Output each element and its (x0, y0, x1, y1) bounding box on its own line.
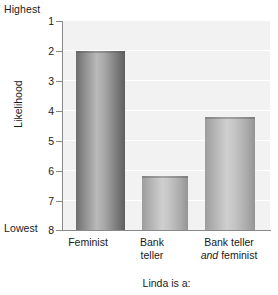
bar-top-edge (205, 117, 255, 119)
y-tick-4 (56, 111, 62, 112)
category-label-bank-teller: Bank teller (118, 236, 186, 261)
y-tick-label-8: 8 (2, 224, 54, 236)
y-tick-3 (56, 81, 62, 82)
category-label-italic-word: and (201, 249, 219, 261)
y-tick-label-5: 5 (2, 135, 54, 147)
bar-top-edge (142, 176, 188, 178)
y-tick-label-6: 6 (2, 165, 54, 177)
y-tick-label-2: 2 (2, 45, 54, 57)
x-axis-line (62, 230, 271, 231)
y-tick-8 (56, 230, 62, 231)
bar-top-edge (76, 51, 125, 53)
bar-feminist (76, 51, 125, 230)
x-axis-title: Linda is a: (63, 277, 270, 289)
category-label-line: Bank (118, 236, 186, 249)
y-tick-label-wrap-8: 8 (0, 230, 54, 231)
y-tick-label-1: 1 (2, 15, 54, 27)
y-tick-5 (56, 141, 62, 142)
axis-extreme-highest-label: Highest (4, 3, 40, 15)
y-tick-label-wrap-1: 1 (0, 21, 54, 22)
bar-bank-teller-and-feminist (205, 117, 255, 230)
y-tick-label-wrap-6: 6 (0, 171, 54, 172)
y-tick-label-3: 3 (2, 75, 54, 87)
y-tick-label-4: 4 (2, 105, 54, 117)
likelihood-bar-chart: Highest Lowest Likelihood 1 2 3 (0, 0, 278, 295)
y-axis-line (62, 21, 63, 231)
bar-bank-teller (142, 176, 188, 230)
y-tick-1 (56, 21, 62, 22)
y-tick-label-wrap-5: 5 (0, 141, 54, 142)
category-label-feminist: Feminist (52, 236, 124, 249)
y-tick-label-wrap-2: 2 (0, 51, 54, 52)
category-label-line: Bank teller (182, 236, 276, 249)
y-tick-2 (56, 51, 62, 52)
category-label-line: teller (118, 249, 186, 262)
y-tick-label-wrap-4: 4 (0, 111, 54, 112)
plot-area (63, 21, 270, 230)
category-label-bank-teller-and-feminist: Bank teller and feminist (182, 236, 276, 261)
y-tick-label-wrap-3: 3 (0, 81, 54, 82)
y-tick-label-wrap-7: 7 (0, 201, 54, 202)
category-label-line-italic-mixed: and feminist (182, 249, 276, 262)
y-tick-6 (56, 171, 62, 172)
category-label-plain-word: feminist (221, 249, 257, 261)
y-tick-label-7: 7 (2, 195, 54, 207)
category-label-line: Feminist (52, 236, 124, 249)
y-tick-7 (56, 201, 62, 202)
